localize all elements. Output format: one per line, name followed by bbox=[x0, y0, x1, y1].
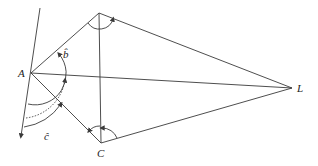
angle-c-arc bbox=[24, 104, 61, 127]
edge-b-l bbox=[99, 13, 292, 88]
edge-a-l bbox=[31, 73, 292, 88]
label-a: A bbox=[17, 67, 25, 79]
label-c: C bbox=[97, 147, 105, 159]
angle-c-left-arc bbox=[89, 126, 100, 131]
label-b-hat: b̂ bbox=[63, 48, 69, 60]
edge-c-l bbox=[101, 88, 292, 143]
angle-b-arc bbox=[28, 54, 66, 105]
angle-dashed-arc bbox=[26, 80, 65, 118]
geometry-diagram: A b̂ ĉ C L bbox=[0, 0, 318, 166]
label-l: L bbox=[296, 82, 303, 94]
edge-a-c bbox=[31, 73, 101, 143]
angle-b-vertex-arc bbox=[88, 19, 113, 29]
label-c-hat: ĉ bbox=[44, 130, 49, 142]
angle-c-right-arc bbox=[102, 128, 117, 138]
edge-b-c bbox=[99, 13, 101, 143]
